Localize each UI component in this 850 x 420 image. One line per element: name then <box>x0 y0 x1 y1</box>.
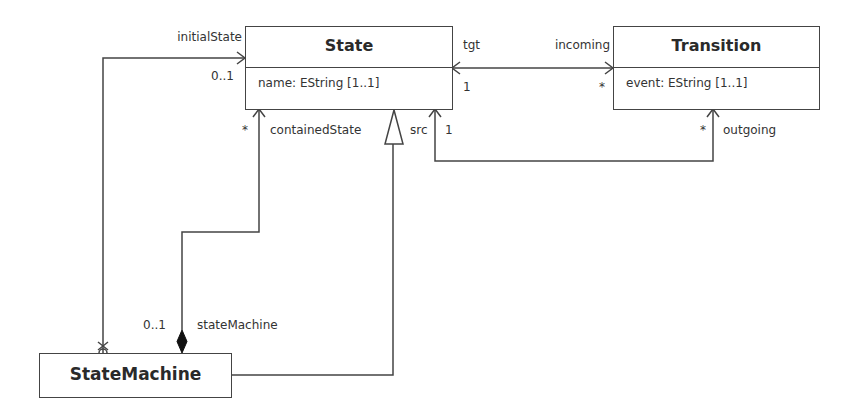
composition-diamond-icon <box>177 330 187 353</box>
incoming-role-label: incoming <box>555 38 610 52</box>
class-state-name: State <box>246 27 452 68</box>
src-role-label: src <box>410 123 428 137</box>
contained-state-role-label: containedState <box>270 123 361 137</box>
src-multiplicity-label: 1 <box>445 123 453 137</box>
contained-state-multiplicity-label: * <box>242 123 248 137</box>
class-state-machine[interactable]: StateMachine <box>39 353 232 398</box>
class-transition-attribute: event: EString [1..1] <box>614 68 819 90</box>
outgoing-multiplicity-label: * <box>700 123 706 137</box>
generalization-triangle-icon <box>385 110 403 144</box>
tgt-role-label: tgt <box>463 38 480 52</box>
outgoing-role-label: outgoing <box>723 123 776 137</box>
contained-state-composition-line <box>182 109 259 330</box>
state-machine-role-label: stateMachine <box>197 318 278 332</box>
class-transition-name: Transition <box>614 27 819 68</box>
state-machine-multiplicity-label: 0..1 <box>143 318 166 332</box>
initial-state-multiplicity-label: 0..1 <box>211 69 234 83</box>
class-state[interactable]: State name: EString [1..1] <box>245 26 453 110</box>
class-transition[interactable]: Transition event: EString [1..1] <box>613 26 820 110</box>
incoming-multiplicity-label: * <box>599 80 605 94</box>
initial-state-role-label: initialState <box>177 30 242 44</box>
generalization-line <box>231 144 393 375</box>
tgt-multiplicity-label: 1 <box>463 80 471 94</box>
class-state-attribute: name: EString [1..1] <box>246 68 452 90</box>
initial-state-association-line <box>103 58 245 353</box>
src-outgoing-association-line <box>435 109 713 161</box>
class-state-machine-name: StateMachine <box>40 354 231 397</box>
